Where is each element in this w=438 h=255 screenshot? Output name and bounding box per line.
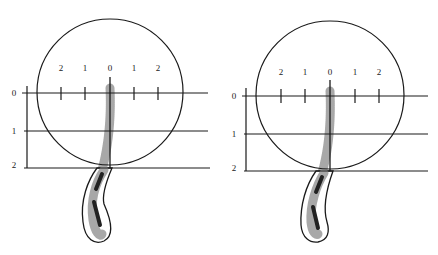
col-label: 2 [59, 63, 64, 73]
col-label: 1 [303, 67, 308, 77]
col-label: 1 [83, 63, 88, 73]
shadow-trail [102, 88, 110, 170]
row-label: 0 [12, 88, 17, 98]
row-label: 2 [12, 160, 17, 170]
row-label: 0 [232, 91, 237, 101]
row-label: 1 [12, 126, 17, 136]
row-label: 2 [232, 163, 237, 173]
col-label: 2 [156, 63, 161, 73]
col-label: 2 [377, 67, 382, 77]
col-label: 1 [353, 67, 358, 77]
shadow-trail [322, 91, 330, 173]
col-label: 0 [328, 67, 333, 77]
left-panel: 2 1 0 1 2 0 1 2 [12, 19, 210, 242]
diagram-canvas: 2 1 0 1 2 0 1 2 2 1 0 1 2 0 1 2 [0, 0, 438, 255]
row-label: 1 [232, 129, 237, 139]
right-panel: 2 1 0 1 2 0 1 2 [232, 21, 428, 242]
col-label: 0 [108, 63, 113, 73]
col-label: 1 [132, 63, 137, 73]
col-label: 2 [279, 67, 284, 77]
